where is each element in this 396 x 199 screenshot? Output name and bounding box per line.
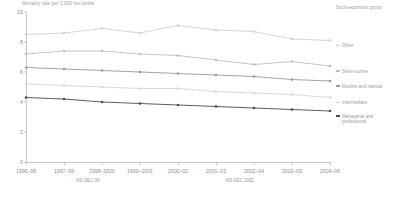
data-point: [215, 90, 217, 92]
data-point: [25, 96, 27, 98]
legend-item[interactable]: Other: [336, 43, 353, 48]
legend-item-label: Intermediate: [342, 100, 367, 105]
x-tick-mark: [102, 162, 103, 165]
data-point: [253, 75, 255, 77]
x-group-label-nssec90: NS-SEC 90: [76, 178, 100, 183]
data-point: [215, 105, 217, 107]
x-tick-mark: [330, 162, 331, 165]
data-point: [253, 107, 255, 109]
legend-swatch-icon: [336, 102, 340, 104]
series-line: [26, 84, 330, 98]
chart-container: Mortality rate per 1,000 live births 024…: [0, 0, 396, 199]
x-tick-label: 1998–2000: [89, 168, 115, 174]
legend-swatch-icon: [336, 115, 340, 117]
data-point: [291, 108, 293, 110]
y-tick-label: 10: [17, 9, 23, 15]
data-point: [101, 27, 103, 29]
data-point: [63, 50, 65, 52]
data-point: [139, 53, 141, 55]
series-other: [25, 24, 331, 41]
legend-swatch-icon: [336, 85, 340, 87]
x-tick-mark: [64, 162, 65, 165]
data-point: [25, 83, 27, 85]
x-tick-label: 1996–98: [16, 168, 36, 174]
y-tick-mark: [24, 42, 27, 43]
data-point: [329, 80, 331, 82]
data-point: [63, 84, 65, 86]
x-tick-label: 1999–2001: [127, 168, 153, 174]
legend-title: Socio-economic group: [336, 5, 394, 11]
data-point: [253, 92, 255, 94]
data-point: [101, 101, 103, 103]
data-point: [63, 68, 65, 70]
x-tick-label: 2000–02: [168, 168, 188, 174]
series-managerial-and-professional: [25, 96, 331, 112]
data-point: [63, 32, 65, 34]
legend-item-label: Managerial and professional: [342, 114, 394, 124]
legend-item[interactable]: Routine and manual: [336, 84, 382, 89]
legend: Socio-economic group OtherSemi-routineRo…: [336, 5, 394, 13]
data-point: [291, 60, 293, 62]
x-group-label-nssec2001: NS-SEC 2001: [226, 178, 255, 183]
data-point: [101, 86, 103, 88]
data-point: [253, 63, 255, 65]
data-point: [139, 32, 141, 34]
legend-item-label: Routine and manual: [342, 84, 382, 89]
data-point: [101, 50, 103, 52]
x-tick-label: 2001–03: [206, 168, 226, 174]
y-axis-title: Mortality rate per 1,000 live births: [22, 1, 94, 6]
legend-item[interactable]: Intermediate: [336, 100, 367, 105]
data-point: [215, 59, 217, 61]
x-tick-label: 1997–99: [54, 168, 74, 174]
x-tick-label: 2003–05: [282, 168, 302, 174]
legend-item-label: Semi-routine: [342, 69, 368, 74]
series-intermediate: [25, 83, 331, 99]
series-line: [26, 26, 330, 41]
x-tick-label: 2002–04: [244, 168, 264, 174]
data-point: [329, 39, 331, 41]
data-point: [329, 110, 331, 112]
x-tick-mark: [292, 162, 293, 165]
data-point: [25, 33, 27, 35]
data-point: [329, 65, 331, 67]
legend-swatch-icon: [336, 45, 340, 47]
data-point: [25, 53, 27, 55]
legend-item-label: Other: [342, 43, 353, 48]
data-point: [329, 96, 331, 98]
data-point: [139, 87, 141, 89]
series-line: [26, 51, 330, 66]
series-layer: [26, 12, 330, 162]
data-point: [101, 69, 103, 71]
data-point: [177, 24, 179, 26]
data-point: [25, 66, 27, 68]
data-point: [177, 72, 179, 74]
x-tick-mark: [140, 162, 141, 165]
x-tick-mark: [216, 162, 217, 165]
x-tick-label: 2004–06: [320, 168, 340, 174]
legend-item[interactable]: Managerial and professional: [336, 114, 394, 124]
x-tick-mark: [254, 162, 255, 165]
data-point: [291, 38, 293, 40]
x-tick-mark: [178, 162, 179, 165]
data-point: [291, 78, 293, 80]
data-point: [139, 71, 141, 73]
data-point: [291, 93, 293, 95]
data-point: [215, 74, 217, 76]
y-tick-mark: [24, 72, 27, 73]
plot-area: 02468101996–981997–991998–20001999–20012…: [26, 12, 330, 162]
data-point: [177, 87, 179, 89]
data-point: [139, 102, 141, 104]
x-tick-mark: [26, 162, 27, 165]
y-tick-mark: [24, 102, 27, 103]
data-point: [215, 29, 217, 31]
series-routine-and-manual: [25, 66, 331, 82]
series-semi-routine: [25, 50, 331, 67]
y-tick-mark: [24, 12, 27, 13]
data-point: [253, 30, 255, 32]
legend-item[interactable]: Semi-routine: [336, 69, 368, 74]
data-point: [177, 104, 179, 106]
data-point: [63, 98, 65, 100]
y-tick-mark: [24, 132, 27, 133]
legend-swatch-icon: [336, 70, 340, 72]
data-point: [177, 54, 179, 56]
